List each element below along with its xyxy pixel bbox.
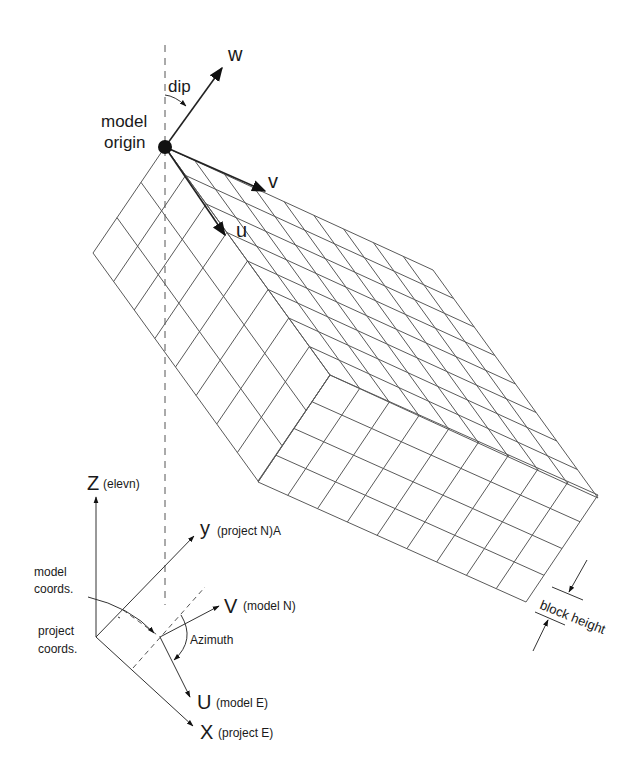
u-model-label: U <box>197 692 211 712</box>
dip-arc <box>165 95 186 106</box>
x-axis-arrow <box>96 637 193 726</box>
block-height-bottom-arrow <box>533 620 548 651</box>
dip-label: dip <box>168 78 191 95</box>
x-axis-note: (project E) <box>218 727 273 739</box>
block-height-top-arrow <box>569 560 587 592</box>
y-axis-note: (project N)A <box>217 525 281 537</box>
y-axis-arrow <box>96 536 194 637</box>
z-axis-note: (elevn) <box>103 478 140 490</box>
v-model-label: V <box>224 596 237 616</box>
azimuth-arc <box>174 615 187 660</box>
x-axis-label: X <box>200 722 213 742</box>
block-height-top-tick <box>552 587 583 600</box>
model-coords-label-line2: coords. <box>34 583 73 595</box>
v-label: v <box>268 171 278 191</box>
project-coords-label-line1: project <box>38 625 74 637</box>
v-model-note: (model N) <box>243 600 296 612</box>
w-label: w <box>228 44 242 64</box>
project-coords-label-line2: coords. <box>38 643 77 655</box>
model-coords-leader <box>88 597 154 633</box>
model-axis-dashed-1 <box>123 610 160 637</box>
block-grid <box>93 147 598 602</box>
model-coords-label-line1: model <box>34 566 67 578</box>
y-axis-label: y <box>200 518 210 538</box>
model-origin-label-line2: origin <box>104 134 146 151</box>
model-origin-point <box>158 140 172 154</box>
block-model-diagram <box>0 0 642 770</box>
z-axis-label: Z <box>87 473 99 493</box>
u-label: u <box>236 220 247 240</box>
project-coords-leader <box>118 617 120 618</box>
azimuth-label: Azimuth <box>190 634 233 646</box>
u-model-arrow <box>160 637 190 697</box>
model-origin-label-line1: model <box>101 113 147 130</box>
u-model-note: (model E) <box>216 697 268 709</box>
